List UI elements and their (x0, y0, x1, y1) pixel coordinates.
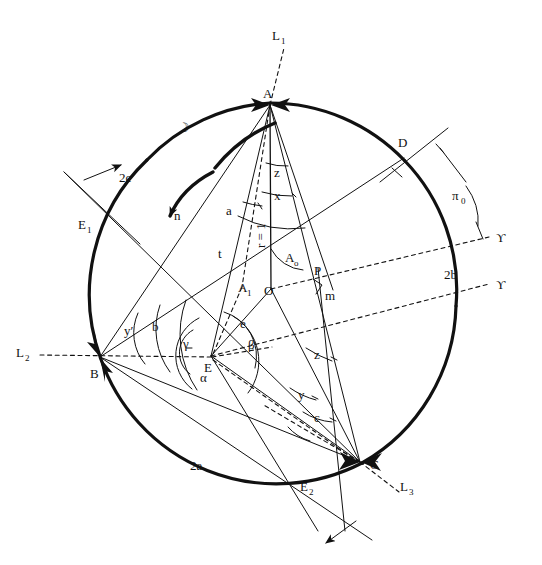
svg-text:1: 1 (87, 225, 92, 235)
label-aries-lower: ϒ (496, 277, 506, 292)
svg-text:2: 2 (309, 487, 314, 497)
line-A1-E (213, 287, 242, 354)
angle-label-m: m (325, 288, 335, 303)
diagram-canvas: A B C D O E P E 1 E 2 A o A 1 L 1 L 2 (0, 0, 542, 565)
segment-B-C (100, 357, 360, 462)
segment-C-vertical (318, 268, 345, 531)
label-point-B: B (90, 366, 99, 381)
label-line-L2: L 2 (16, 345, 30, 363)
arc-wide-A (238, 216, 305, 229)
svg-text:3: 3 (409, 487, 414, 497)
label-point-P: P (314, 263, 321, 278)
geometry-figure: A B C D O E P E 1 E 2 A o A 1 L 1 L 2 (0, 0, 542, 565)
dashed-lines (40, 48, 489, 492)
label-point-E1: E 1 (78, 217, 92, 235)
pi0-arc (466, 186, 478, 226)
segment-B-E2 (100, 357, 372, 540)
svg-text:L: L (272, 28, 280, 43)
angle-label-y-low: y (298, 387, 305, 402)
angle-label-y-prime: y′ (124, 323, 134, 338)
angle-label-a: a (226, 203, 232, 218)
svg-text:1: 1 (247, 288, 252, 298)
svg-text:E: E (300, 479, 308, 494)
segment-B-D (100, 158, 404, 357)
svg-text:2: 2 (25, 353, 30, 363)
svg-text:0: 0 (461, 196, 466, 206)
label-point-O: O (264, 283, 273, 298)
svg-text:L: L (16, 345, 24, 360)
angle-label-c-low: c (314, 410, 320, 425)
labels: A B C D O E P E 1 E 2 A o A 1 L 1 L 2 (16, 28, 506, 497)
pi0-bracket-lower (476, 222, 483, 239)
segment-A-O (270, 105, 271, 289)
label-point-C: C (370, 457, 379, 472)
label-arc-2b: 2b (444, 267, 457, 282)
D-tick (392, 168, 402, 177)
angle-label-b: b (152, 319, 159, 334)
angle-label-alpha: α (200, 370, 207, 385)
arrow-bottom (326, 521, 356, 543)
pi0-bracket-upper (440, 148, 466, 182)
angle-label-x-top: x (274, 188, 281, 203)
line-L2 (40, 355, 212, 357)
label-point-D: D (398, 135, 407, 150)
svg-text:E: E (78, 217, 86, 232)
svg-text:L: L (400, 479, 408, 494)
label-arc-2c: 2c (119, 170, 132, 185)
label-line-L3: L 3 (400, 479, 414, 497)
label-aries-upper: ϒ (496, 230, 506, 245)
moon-icon: ☽ (178, 120, 190, 135)
segment-A-C (270, 105, 360, 462)
segment-E-bottom (211, 356, 318, 531)
svg-text:π: π (452, 188, 459, 203)
label-arc-2a: 2a (190, 458, 203, 473)
tangent-D (380, 128, 448, 182)
label-point-A1: A 1 (238, 280, 252, 298)
segment-O-C (271, 289, 360, 462)
angle-label-e: e (240, 316, 246, 331)
angle-label-t: t (218, 246, 222, 261)
angle-label-z-low: z (314, 347, 320, 362)
label-point-A: A (263, 86, 273, 101)
svg-text:o: o (294, 258, 299, 268)
angle-label-z-top: z (274, 165, 280, 180)
label-pi0: π 0 (452, 188, 466, 206)
arc-b (156, 305, 170, 372)
label-radius: r = 1 (253, 223, 268, 248)
line-L3 (360, 462, 399, 492)
rotation-arrow (170, 123, 275, 216)
svg-text:1: 1 (281, 36, 286, 46)
arrow-E1 (84, 165, 121, 180)
label-line-L1: L 1 (272, 28, 286, 46)
angle-label-beta: β (248, 337, 255, 352)
angle-label-gamma: γ (182, 336, 189, 351)
angle-label-n: n (174, 208, 181, 223)
tick-y-low (312, 396, 318, 399)
